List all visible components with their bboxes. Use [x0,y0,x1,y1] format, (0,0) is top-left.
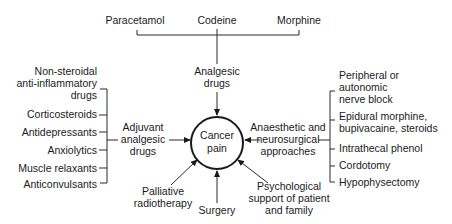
psychological-label-1: Psychological [257,180,321,192]
adjuvant-item-nsaid-3: drugs [71,89,97,101]
anaesthetic-item-nerve-block-3: nerve block [339,93,393,105]
top-drugs-bracket [137,30,299,35]
palliative-label-2: radiotherapy [134,197,193,209]
adjuvant-item-corticosteroids: Corticosteroids [27,108,97,120]
palliative-arrow [171,160,197,185]
analgesic-drugs-label-2: drugs [204,77,230,89]
cancer-pain-diagram: Paracetamol Codeine Morphine Analgesic d… [0,0,452,224]
adjuvant-label-2: analgesic [121,133,165,145]
drug-morphine: Morphine [277,14,321,26]
anaesthetic-item-nerve-block-1: Peripheral or [339,69,400,81]
anaesthetic-item-cordotomy: Cordotomy [339,159,391,171]
center-label-1: Cancer [200,129,234,141]
anaesthetic-item-hypophysectomy: Hypophysectomy [339,176,420,188]
palliative-label-1: Palliative [142,185,184,197]
adjuvant-item-nsaid-2: anti-inflammatory [16,77,97,89]
anaesthetic-item-nerve-block-2: autonomic [339,81,387,93]
adjuvant-item-muscle-relaxants: Muscle relaxants [18,162,97,174]
adjuvant-label-3: drugs [130,145,156,157]
adjuvant-label-1: Adjuvant [123,121,164,133]
surgery-label: Surgery [199,204,237,216]
adjuvant-item-anticonvulsants: Anticonvulsants [23,178,97,190]
adjuvant-bracket [100,89,107,183]
anaesthetic-label-2: neurosurgical [256,133,319,145]
adjuvant-item-anxiolytics: Anxiolytics [47,144,97,156]
adjuvant-item-nsaid-1: Non-steroidal [35,65,97,77]
anaesthetic-label-1: Anaesthetic and [250,121,325,133]
center-label-2: pain [207,142,227,154]
anaesthetic-item-epidural-2: bupivacaine, steroids [339,122,438,134]
anaesthetic-label-3: approaches [261,145,316,157]
psychological-label-3: and family [265,204,314,216]
analgesic-drugs-label-1: Analgesic [194,65,240,77]
drug-paracetamol: Paracetamol [106,14,165,26]
drug-codeine: Codeine [197,14,236,26]
psychological-label-2: support of patient [248,192,329,204]
anaesthetic-item-epidural-1: Epidural morphine, [339,110,427,122]
anaesthetic-item-intrathecal-phenol: Intrathecal phenol [339,142,422,154]
anaesthetic-bracket [330,91,335,182]
adjuvant-item-antidepressants: Antidepressants [22,126,97,138]
